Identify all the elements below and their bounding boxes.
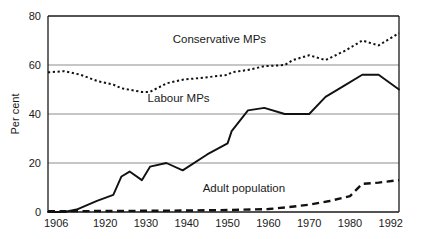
grid-lines <box>48 65 399 163</box>
x-tick-label: 1980 <box>338 217 362 229</box>
y-tick-label: 40 <box>29 108 41 120</box>
line-chart: 020406080 190619201930194019501960197019… <box>0 0 427 239</box>
x-tick-label: 1930 <box>134 217 158 229</box>
series-label: Conservative MPs <box>173 33 267 45</box>
y-axis-tick-labels: 020406080 <box>29 10 41 218</box>
x-tick-label: 1970 <box>297 217 321 229</box>
y-tick-label: 80 <box>29 10 41 22</box>
y-tick-label: 0 <box>35 206 41 218</box>
y-axis-title: Per cent <box>9 94 21 135</box>
series-label: Adult population <box>203 182 285 194</box>
x-tick-label: 1992 <box>379 217 403 229</box>
chart-container: 020406080 190619201930194019501960197019… <box>0 0 427 239</box>
x-tick-label: 1906 <box>44 217 68 229</box>
x-tick-label: 1920 <box>93 217 117 229</box>
y-axis-title-text: Per cent <box>9 94 21 135</box>
x-axis-tick-labels: 190619201930194019501960197019801992 <box>44 217 403 229</box>
y-tick-label: 60 <box>29 59 41 71</box>
x-tick-label: 1960 <box>256 217 280 229</box>
y-tick-label: 20 <box>29 157 41 169</box>
x-tick-label: 1940 <box>175 217 199 229</box>
series-label: Labour MPs <box>148 92 210 104</box>
x-tick-label: 1950 <box>215 217 239 229</box>
